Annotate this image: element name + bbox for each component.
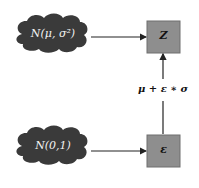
prior-cloud-label: N(μ, σ²)	[22, 27, 84, 40]
z-box-label: Z	[147, 29, 180, 42]
epsilon-box-label: ε	[147, 143, 180, 156]
noise-cloud-label: N(0,1)	[22, 139, 84, 152]
reparameterization-label: μ + ε ∗ σ	[133, 83, 193, 94]
